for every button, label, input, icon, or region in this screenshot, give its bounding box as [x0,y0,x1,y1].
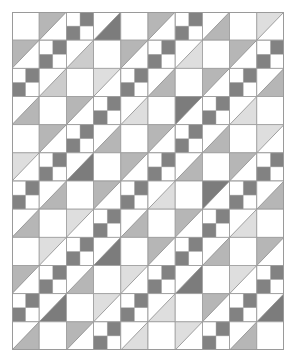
quilt-cell [230,181,257,209]
quilt-cell [175,12,202,40]
quilt-cell [257,294,284,322]
cell-background [66,68,93,96]
four-patch-dark-square [53,153,67,167]
quilt-cell [202,97,229,125]
quilt-cell [148,266,175,294]
cell-background [175,181,202,209]
four-patch-dark-square [148,280,162,294]
quilt-cell [121,12,148,40]
quilt-cell [148,237,175,265]
four-patch-dark-square [202,336,216,350]
quilt-cell [94,237,121,265]
quilt-cell [230,12,257,40]
four-patch-dark-square [26,294,40,308]
quilt-cell [257,181,284,209]
quilt-cell [257,125,284,153]
quilt-cell [121,40,148,68]
cell-background [202,40,229,68]
four-patch-dark-square [257,167,271,181]
quilt-cell [175,209,202,237]
quilt-cell [39,153,66,181]
quilt-cell [230,209,257,237]
four-patch-dark-square [243,68,257,82]
quilt-cell [39,125,66,153]
cell-background [257,97,284,125]
quilt-cell [175,294,202,322]
four-patch-dark-square [80,237,94,251]
four-patch-dark-square [189,125,203,139]
four-patch-dark-square [121,308,135,322]
quilt-cell [257,209,284,237]
quilt-cell [257,40,284,68]
four-patch-dark-square [175,251,189,265]
quilt-cell [202,12,229,40]
quilt-cell [202,40,229,68]
four-patch-dark-square [94,336,108,350]
quilt-cell [66,237,93,265]
four-patch-dark-square [66,26,80,40]
quilt-cell [230,125,257,153]
quilt-cell [202,266,229,294]
four-patch-dark-square [175,139,189,153]
quilt-cell [175,68,202,96]
four-patch-dark-square [107,322,121,336]
four-patch-dark-square [12,308,26,322]
quilt-cell [121,237,148,265]
four-patch-dark-square [134,294,148,308]
quilt-cell [121,181,148,209]
quilt-cell [94,322,121,350]
quilt-cell [202,322,229,350]
quilt-cell [202,125,229,153]
four-patch-dark-square [230,308,244,322]
quilt-cell [230,68,257,96]
quilt-cell [202,237,229,265]
four-patch-dark-square [66,251,80,265]
quilt-cell [148,322,175,350]
four-patch-dark-square [230,195,244,209]
quilt-cell [202,181,229,209]
quilt-cell [39,266,66,294]
quilt-cell [39,12,66,40]
four-patch-dark-square [53,40,67,54]
four-patch-dark-square [257,54,271,68]
four-patch-dark-square [39,54,53,68]
quilt-cell [12,294,39,322]
quilt-cell [148,40,175,68]
four-patch-dark-square [148,167,162,181]
quilt-cell [94,266,121,294]
quilt-cell [175,40,202,68]
cell-background [94,153,121,181]
quilt-cell [94,209,121,237]
quilt-cell [121,322,148,350]
quilt-cell [12,209,39,237]
quilt-cell [257,12,284,40]
quilt-cell [230,237,257,265]
quilt-cell [202,68,229,96]
quilt-cell [148,97,175,125]
quilt-cell [66,40,93,68]
four-patch-dark-square [121,195,135,209]
quilt-cell [148,125,175,153]
four-patch-dark-square [26,68,40,82]
quilt-cell [66,209,93,237]
cell-background [12,237,39,265]
four-patch-dark-square [202,111,216,125]
four-patch-dark-square [270,40,284,54]
quilt-cell [230,322,257,350]
four-patch-dark-square [26,181,40,195]
quilt-cell [39,181,66,209]
quilt-cell [12,68,39,96]
quilt-cell [94,12,121,40]
quilt-cell [94,68,121,96]
four-patch-dark-square [94,223,108,237]
four-patch-dark-square [134,68,148,82]
quilt-cell [66,97,93,125]
quilt-cell [175,125,202,153]
cell-background [66,181,93,209]
quilt-cell [202,294,229,322]
quilt-cell [257,322,284,350]
cell-background [94,40,121,68]
quilt-cell [66,266,93,294]
four-patch-dark-square [162,266,176,280]
quilt-cell [12,40,39,68]
